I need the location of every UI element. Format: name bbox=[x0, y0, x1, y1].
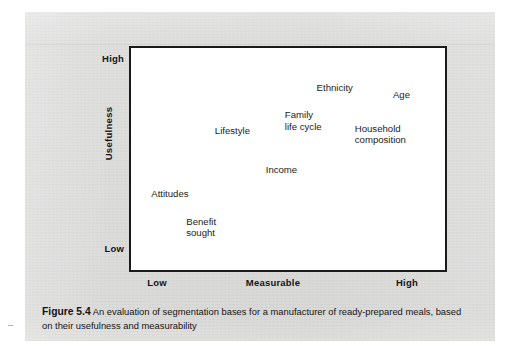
x-axis-title-measurable: Measurable bbox=[238, 277, 308, 288]
data-point-label: Lifestyle bbox=[215, 125, 250, 137]
data-point-label: Income bbox=[266, 164, 297, 176]
y-axis-label-low: Low bbox=[90, 243, 124, 254]
data-point-label: Attitudes bbox=[151, 188, 188, 200]
data-point-label: Benefit sought bbox=[186, 216, 216, 239]
data-point-label: Family life cycle bbox=[285, 109, 322, 132]
figure-number: Figure 5.4 bbox=[42, 306, 91, 317]
y-axis-title: Usefulness bbox=[103, 99, 114, 169]
x-axis-label-low: Low bbox=[136, 277, 178, 288]
data-point-label: Ethnicity bbox=[317, 82, 353, 94]
y-axis-label-high: High bbox=[90, 53, 124, 64]
data-point-label: Household composition bbox=[355, 123, 406, 146]
data-point-label: Age bbox=[393, 89, 410, 101]
plot-frame bbox=[129, 46, 447, 272]
figure-container: High Low Usefulness Low Measurable High … bbox=[0, 0, 515, 353]
figure-caption-text: An evaluation of segmentation bases for … bbox=[42, 306, 461, 331]
figure-caption: Figure 5.4 An evaluation of segmentation… bbox=[42, 305, 462, 332]
x-axis-label-high: High bbox=[386, 277, 428, 288]
